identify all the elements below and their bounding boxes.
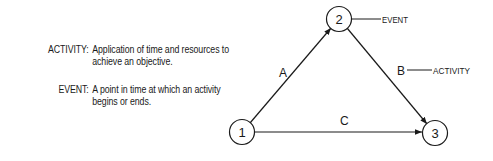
edge-c: C (255, 114, 422, 132)
node-label: 3 (431, 126, 438, 141)
callout-label-event: EVENT (382, 14, 408, 25)
callout-event: EVENT (352, 14, 408, 25)
node-label: 2 (335, 12, 342, 27)
arrow-icon (347, 28, 427, 124)
network-diagram: A B C EVENT ACTIVITY 1 2 3 (0, 0, 493, 161)
node-1: 1 (230, 120, 255, 145)
node-2: 2 (327, 7, 352, 32)
edge-a: A (250, 28, 331, 123)
callout-activity: ACTIVITY (407, 65, 471, 76)
callout-label-activity: ACTIVITY (433, 65, 471, 76)
edge-label-a: A (279, 66, 287, 80)
node-3: 3 (423, 121, 448, 146)
edge-label-c: C (340, 114, 349, 128)
edge-label-b: B (397, 64, 405, 78)
arrow-icon (250, 28, 331, 123)
node-label: 1 (238, 125, 245, 140)
edge-b: B (347, 28, 427, 124)
